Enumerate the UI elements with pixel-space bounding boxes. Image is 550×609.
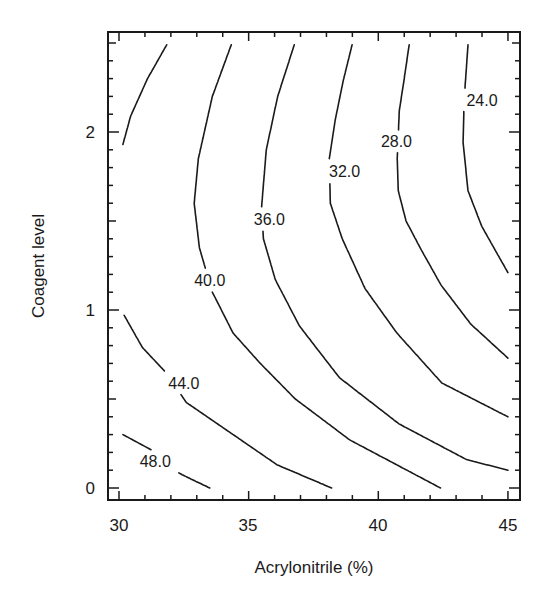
x-tick-label-45: 45 xyxy=(499,516,518,535)
contour-label-24-0: 24.0 xyxy=(466,92,497,109)
y-tick-label-0: 0 xyxy=(86,479,95,498)
y-tick-label-2: 2 xyxy=(86,123,95,142)
x-tick-label-30: 30 xyxy=(110,516,129,535)
contour-line-32-0 xyxy=(330,184,508,417)
contour-label-32-0: 32.0 xyxy=(329,163,360,180)
x-tick-label-35: 35 xyxy=(239,516,258,535)
plot-frame xyxy=(108,32,520,500)
x-tick-label-40: 40 xyxy=(369,516,388,535)
contour-line-24-0 xyxy=(463,112,508,273)
contour-line-48-0 xyxy=(179,473,210,488)
contour-lines xyxy=(123,45,508,488)
contour-label-44-0: 44.0 xyxy=(168,375,199,392)
contour-line-44-0 xyxy=(124,315,164,371)
x-tick-labels: 30 35 40 45 xyxy=(110,516,518,535)
x-axis-title: Acrylonitrile (%) xyxy=(254,558,373,577)
contour-line-32-0 xyxy=(329,45,352,159)
axis-ticks xyxy=(108,32,520,500)
plot-area-border xyxy=(108,32,520,500)
contour-line-36-0 xyxy=(263,231,508,470)
contour-line-28-0 xyxy=(397,153,508,358)
contour-line-40-0 xyxy=(212,292,440,488)
contour-line-24-0 xyxy=(465,45,468,88)
contour-chart: 24.028.032.036.040.044.048.0 30 35 40 45… xyxy=(0,0,550,609)
contour-label-28-0: 28.0 xyxy=(381,133,412,150)
contour-line-48-0 xyxy=(123,435,151,450)
y-tick-label-1: 1 xyxy=(86,301,95,320)
contour-line-28-0 xyxy=(399,45,410,130)
contour-line-44-0 xyxy=(123,45,167,145)
y-tick-labels: 0 1 2 xyxy=(86,123,95,498)
contour-label-40-0: 40.0 xyxy=(194,272,225,289)
contour-label-48-0: 48.0 xyxy=(140,453,171,470)
y-axis-title: Coagent level xyxy=(29,214,48,318)
contour-label-36-0: 36.0 xyxy=(254,211,285,228)
contour-line-40-0 xyxy=(194,45,231,268)
contour-labels: 24.028.032.036.040.044.048.0 xyxy=(140,92,498,470)
contour-line-36-0 xyxy=(262,45,295,207)
